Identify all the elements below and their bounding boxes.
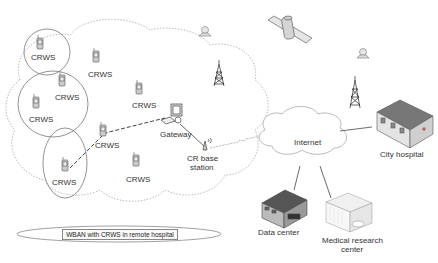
crws-label: CRWS [88,70,112,79]
satellite-icon [268,16,312,43]
phone-icon [136,80,142,94]
caption-box: WBAN with CRWS in remote hospital [62,229,178,240]
phone-icon [33,94,39,108]
city-hospital-label: City hospital [380,150,424,159]
crws-label: CRWS [55,93,79,102]
remote-hospital-cloud [6,19,268,201]
gateway-label: Gateway [160,130,192,139]
gateway-computer-icon [161,104,182,124]
phone-icon [133,152,139,166]
crws-label: CRWS [31,53,55,62]
base-station-label-line2: station [190,163,214,172]
phone-icon [37,35,43,49]
radio-tower-icon [350,76,360,108]
internet-research-link [320,166,331,198]
wban-circle-top [24,29,70,75]
internet-cloud [259,107,346,155]
crws-label: CRWS [29,115,53,124]
phone-icon [62,157,68,171]
satellite-dish-icon [199,27,211,37]
wban-circle-middle [18,71,88,137]
research-center-label-line1: Medical research [322,236,383,245]
crws-label: CRWS [132,101,156,110]
wireless-link [210,135,265,148]
internet-datacenter-link [294,166,300,190]
phone-icon [59,72,65,86]
data-center-label: Data center [258,228,299,237]
internet-label: Internet [294,138,321,147]
base-station-label-line1: CR base [187,154,218,163]
phone-icon [93,48,99,62]
research-center-label-line2: center [341,245,363,254]
data-center-building-icon [262,190,307,228]
crws-label: CRWS [52,178,76,187]
crws-label: CRWS [126,175,150,184]
network-diagram [0,0,438,263]
city-hospital-building-icon [377,100,433,148]
crws-label: CRWS [95,141,119,150]
radio-tower-icon [214,60,224,86]
internet-cityhospital-link [340,127,372,131]
phone-icon [100,122,106,136]
satellite-dish-icon [357,49,369,59]
medical-research-building-icon [326,193,372,232]
